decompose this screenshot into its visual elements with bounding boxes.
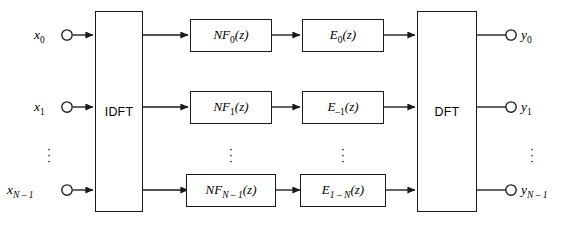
output-port-1 [506,102,516,112]
input-label-2: xN – 1 [7,182,34,200]
idft-label: IDFT [105,105,134,119]
ellipsis-dot: · [44,158,54,164]
ellipsis-e-blocks: · · · [338,146,348,164]
output-port-2 [506,185,516,195]
output-port-0 [506,30,516,40]
input-port-1 [62,102,72,112]
nf-block-0: NF0(z) [190,19,272,52]
wire-layer [0,0,566,231]
nf-block-1-label: NF1(z) [213,99,248,117]
ellipsis-inputs: · · · [44,146,54,164]
e-block-1-label: E–1(z) [327,99,358,117]
nf-block-2: NFN – 1(z) [186,174,276,207]
e-block-2: E1 – N(z) [300,174,386,207]
output-label-0: y0 [521,27,532,45]
e-block-1: E–1(z) [302,91,384,124]
e-block-2-label: E1 – N(z) [322,182,364,200]
nf-block-1: NF1(z) [190,91,272,124]
output-label-1: y1 [521,99,532,117]
input-port-2 [62,185,72,195]
ellipsis-outputs: · · · [527,146,537,164]
input-label-0: x0 [34,27,45,45]
idft-block: IDFT [95,11,143,212]
input-port-0 [62,30,72,40]
ellipsis-dot: · [527,158,537,164]
nf-block-2-label: NFN – 1(z) [206,182,257,200]
output-label-2: yN – 1 [521,182,548,200]
ellipsis-dot: · [226,158,236,164]
input-label-1: x1 [34,99,45,117]
nf-block-0-label: NF0(z) [213,27,248,45]
ellipsis-dot: · [338,158,348,164]
e-block-0-label: E0(z) [330,27,356,45]
e-block-0: E0(z) [302,19,384,52]
block-diagram: x0 x1 xN – 1 y0 y1 yN – 1 IDFT DFT NF0(z… [0,0,566,231]
ellipsis-nf-blocks: · · · [226,146,236,164]
dft-block: DFT [417,11,477,212]
dft-label: DFT [435,105,460,119]
